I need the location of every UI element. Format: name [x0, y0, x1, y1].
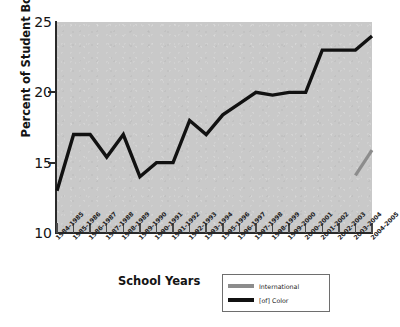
y-tick-label: 25 — [26, 15, 52, 29]
legend-swatch-international-icon — [228, 284, 254, 287]
y-tick-mark — [48, 162, 56, 164]
series-layer — [57, 22, 372, 233]
legend-swatch-of-color-icon — [228, 298, 254, 302]
legend-label-of-color: [of] Color — [259, 297, 288, 304]
legend-label-international: International — [259, 283, 299, 290]
legend-item-of-color[interactable]: [of] Color — [228, 293, 324, 307]
series-line-international — [355, 150, 372, 175]
series-line-of-color — [57, 36, 372, 191]
legend: International [of] Color — [222, 274, 330, 312]
y-tick-mark — [48, 91, 56, 93]
y-tick-label: 10 — [26, 226, 52, 240]
x-axis-title: School Years — [118, 274, 200, 288]
legend-item-international[interactable]: International — [228, 279, 324, 293]
